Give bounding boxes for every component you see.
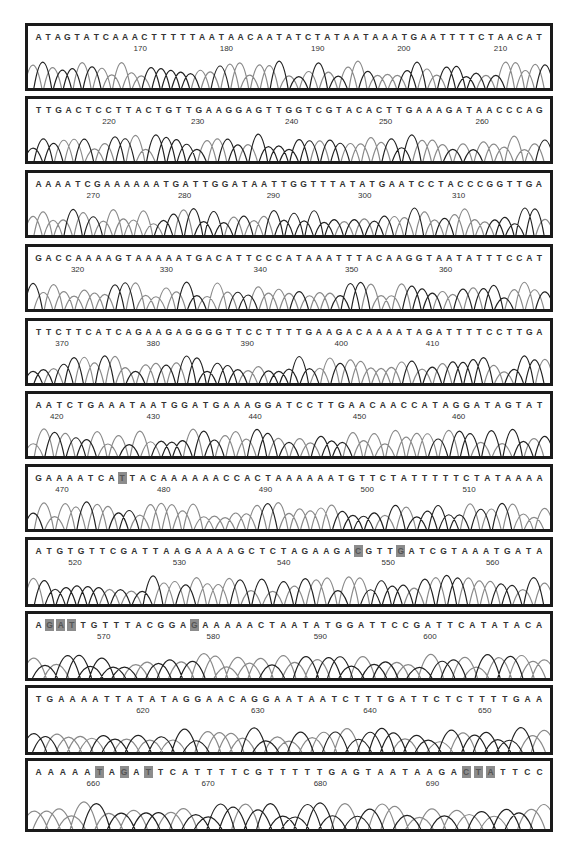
base-call: A [170, 472, 179, 484]
base-call-highlighted: C [462, 766, 471, 778]
base-call: A [284, 252, 293, 264]
position-label: 260 [475, 117, 488, 126]
base-call: A [506, 31, 515, 43]
base-call: T [444, 693, 453, 705]
base-call: T [344, 252, 353, 264]
base-call: T [400, 31, 409, 43]
base-call: G [254, 766, 263, 778]
position-ruler: 370380390400410 [28, 339, 550, 351]
base-call: C [83, 178, 92, 190]
base-call: T [358, 472, 367, 484]
base-call: A [243, 399, 252, 411]
base-call: G [34, 252, 43, 264]
base-call: A [371, 31, 380, 43]
base-call: G [437, 766, 446, 778]
position-label: 520 [68, 558, 81, 567]
position-label: 630 [251, 706, 264, 715]
base-call: A [214, 104, 223, 116]
base-call: T [128, 399, 137, 411]
base-call: T [188, 31, 197, 43]
base-call: T [45, 545, 54, 557]
base-call: A [358, 399, 367, 411]
position-label: 570 [97, 632, 110, 641]
base-call: A [265, 31, 274, 43]
base-call: C [375, 252, 384, 264]
base-call: C [140, 31, 149, 43]
position-label: 440 [248, 412, 261, 421]
base-call: T [74, 326, 83, 338]
base-call: T [268, 619, 277, 631]
base-call: G [347, 472, 356, 484]
base-call: T [511, 766, 520, 778]
base-call: A [82, 31, 91, 43]
base-call: C [428, 545, 437, 557]
base-call: T [386, 545, 395, 557]
base-call: T [114, 104, 123, 116]
base-call: A [312, 619, 321, 631]
base-call: G [164, 326, 173, 338]
chromatogram-panel: TTGACTCCTTACTGTTGAAGGAGTTGGTCGTACACTTGAA… [25, 96, 553, 164]
base-call: T [493, 472, 502, 484]
base-call: T [114, 693, 123, 705]
base-call: T [141, 545, 150, 557]
base-call: A [279, 619, 288, 631]
base-call: C [427, 178, 436, 190]
base-call: T [313, 31, 322, 43]
base-call: G [211, 399, 220, 411]
base-call: C [305, 399, 314, 411]
position-label: 670 [201, 779, 214, 788]
base-call: G [168, 619, 177, 631]
base-call: T [407, 178, 416, 190]
base-call: C [410, 399, 419, 411]
base-call: A [71, 766, 80, 778]
base-call: T [515, 326, 524, 338]
base-call: G [485, 178, 494, 190]
base-call: A [535, 545, 544, 557]
base-call: A [314, 252, 323, 264]
base-call: A [118, 399, 127, 411]
base-call: A [307, 693, 316, 705]
base-call: C [65, 399, 74, 411]
base-call: G [289, 178, 298, 190]
base-call: T [124, 104, 133, 116]
base-call: A [365, 326, 374, 338]
base-call: T [136, 693, 145, 705]
base-call: C [295, 399, 304, 411]
position-label: 360 [439, 265, 452, 274]
base-call: G [334, 619, 343, 631]
base-call: C [244, 326, 253, 338]
base-call: A [181, 766, 190, 778]
base-call: A [134, 619, 143, 631]
base-call: T [264, 104, 273, 116]
trace-peaks [28, 570, 550, 604]
base-call: A [107, 472, 116, 484]
base-call: A [338, 178, 347, 190]
base-sequence: GACCAAAAGTAAAAATGACATTCCCATAAATTTACAAGGT… [34, 252, 544, 264]
position-label: 500 [361, 485, 374, 494]
base-call: A [174, 252, 183, 264]
base-call: T [98, 545, 107, 557]
base-call: T [284, 326, 293, 338]
base-call: A [465, 252, 474, 264]
base-call-highlighted: A [486, 766, 495, 778]
base-call: C [368, 399, 377, 411]
base-call: C [375, 104, 384, 116]
base-call: C [149, 472, 158, 484]
base-call: T [465, 326, 474, 338]
base-call: C [145, 619, 154, 631]
base-call: A [344, 104, 353, 116]
base-call: A [525, 472, 534, 484]
base-call: T [492, 545, 501, 557]
base-call: A [80, 693, 89, 705]
base-call: T [123, 619, 132, 631]
base-call: A [205, 545, 214, 557]
base-call: G [254, 104, 263, 116]
position-label: 510 [462, 485, 475, 494]
base-call: G [512, 693, 521, 705]
base-sequence: TGAAAATTATATAGGAACAGGAATAATCTTTGATTCTCTT… [34, 693, 544, 705]
base-call: A [322, 545, 331, 557]
base-call: A [113, 178, 122, 190]
base-call: A [162, 545, 171, 557]
chromatogram-panel: AGATTGTTTACGGAGAAAAACTAATATGGATTCCGATTCA… [25, 611, 553, 681]
base-call: A [68, 693, 77, 705]
